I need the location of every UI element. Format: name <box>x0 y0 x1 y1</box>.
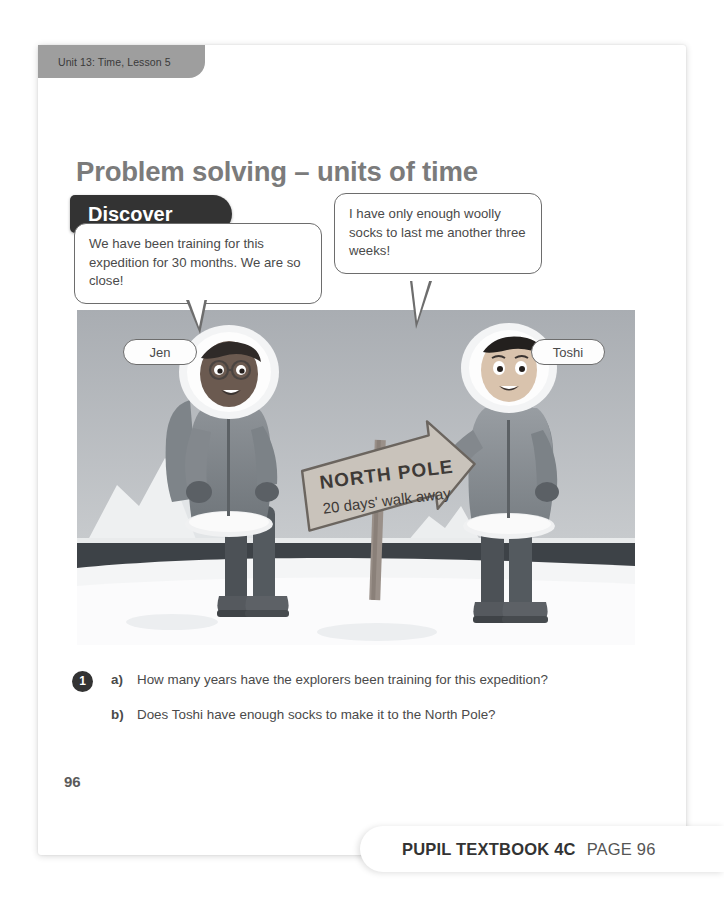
figure-label-jen: Jen <box>123 339 197 365</box>
figure-label-toshi: Toshi <box>531 339 605 365</box>
footer-reference-bar: PUPIL TEXTBOOK 4C PAGE 96 <box>360 826 724 872</box>
page-number: 96 <box>64 773 81 790</box>
question-row-b: b) Does Toshi have enough socks to make … <box>72 705 652 725</box>
question-letter-a: a) <box>111 670 137 690</box>
footer-book-title: PUPIL TEXTBOOK 4C <box>402 840 576 859</box>
speech-bubble-jen-tail-inner <box>188 297 205 327</box>
speech-bubble-toshi-tail-inner <box>412 278 430 321</box>
question-text-a: How many years have the explorers been t… <box>137 670 652 690</box>
footer-page-label: PAGE 96 <box>587 840 656 859</box>
figure-label-toshi-text: Toshi <box>553 345 583 360</box>
unit-tab-label: Unit 13: Time, Lesson 5 <box>58 56 171 68</box>
page-title: Problem solving – units of time <box>76 156 478 188</box>
questions-list: 1 a) How many years have the explorers b… <box>72 670 652 738</box>
speech-bubble-toshi: I have only enough woolly socks to last … <box>334 193 542 274</box>
speech-bubble-jen: We have been training for this expeditio… <box>74 223 322 304</box>
question-row-a: 1 a) How many years have the explorers b… <box>72 670 652 692</box>
question-letter-b: b) <box>111 705 137 725</box>
textbook-page-card: Unit 13: Time, Lesson 5 Problem solving … <box>38 45 686 855</box>
unit-tab: Unit 13: Time, Lesson 5 <box>38 45 205 78</box>
question-number-badge: 1 <box>72 671 93 692</box>
figure-label-jen-text: Jen <box>150 345 171 360</box>
speech-bubble-toshi-text: I have only enough woolly socks to last … <box>349 206 526 258</box>
speech-bubble-jen-text: We have been training for this expeditio… <box>89 236 301 288</box>
question-text-b: Does Toshi have enough socks to make it … <box>137 705 652 725</box>
